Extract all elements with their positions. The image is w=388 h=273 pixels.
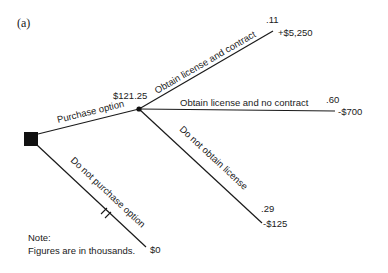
note-title: Note: (28, 232, 51, 243)
pruned-tick-mark (101, 208, 107, 214)
chance-node-dot (136, 106, 141, 111)
license-no-contract-label: Obtain license and no contract (180, 97, 309, 108)
payoff-license-contract: +$5,250 (278, 27, 313, 38)
probability-license-no-contract: .60 (326, 94, 339, 105)
not-purchase-label: Do not purchase option (69, 154, 148, 229)
pruned-tick-mark (105, 212, 111, 218)
figure-label: (a) (17, 16, 30, 30)
decision-node-square (24, 132, 38, 146)
probability-license-contract: .11 (266, 14, 279, 25)
decision-tree-diagram: (a) $121.25 Purchase option Obtain licen… (0, 0, 388, 273)
payoff-not-purchase: $0 (150, 244, 161, 255)
branch-license-no-contract-line (139, 109, 335, 111)
note-text: Figures are in thousands. (28, 245, 135, 256)
branch-no-license-line (139, 109, 262, 223)
payoff-no-license: -$125 (263, 218, 287, 229)
branch-not-purchase-line (37, 145, 146, 247)
no-license-label: Do not obtain license (178, 123, 251, 191)
payoff-license-no-contract: -$700 (338, 106, 362, 117)
license-contract-label: Obtain license and contract (152, 28, 257, 96)
probability-no-license: .29 (261, 203, 274, 214)
